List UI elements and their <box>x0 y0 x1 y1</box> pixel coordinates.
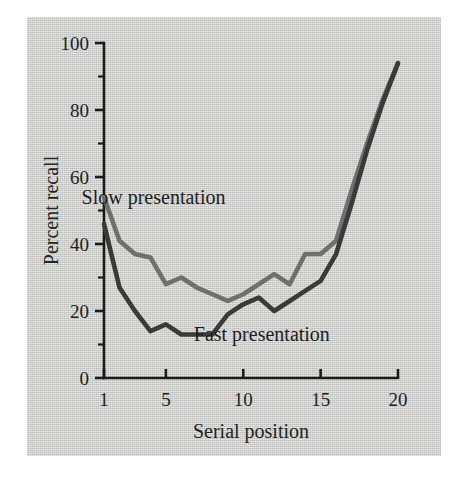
y-tick-label: 20 <box>70 301 89 322</box>
x-tick-label: 15 <box>311 389 330 410</box>
chart-annotations: Slow presentationFast presentation <box>82 186 330 346</box>
x-axis-title: Serial position <box>193 420 309 443</box>
y-axis-ticks <box>95 43 104 378</box>
x-tick-label: 5 <box>161 389 171 410</box>
y-tick-label: 100 <box>61 33 90 54</box>
x-tick-label: 10 <box>234 389 253 410</box>
serial-position-chart: 020406080100 15101520 Percent recall Ser… <box>0 0 469 491</box>
serial-position-figure: 020406080100 15101520 Percent recall Ser… <box>0 0 469 491</box>
y-tick-label: 40 <box>70 234 89 255</box>
series-line-slow-presentation <box>104 63 398 301</box>
series-annotation-slow-presentation: Slow presentation <box>82 186 226 209</box>
y-axis-title: Percent recall <box>40 155 62 265</box>
y-axis-tick-labels: 020406080100 <box>61 33 90 389</box>
x-axis-tick-labels: 15101520 <box>99 389 407 410</box>
y-tick-label: 80 <box>70 100 89 121</box>
y-tick-label: 0 <box>80 368 90 389</box>
x-axis-ticks <box>104 369 398 378</box>
x-tick-label: 20 <box>389 389 408 410</box>
series-annotation-fast-presentation: Fast presentation <box>194 323 330 346</box>
x-tick-label: 1 <box>99 389 109 410</box>
